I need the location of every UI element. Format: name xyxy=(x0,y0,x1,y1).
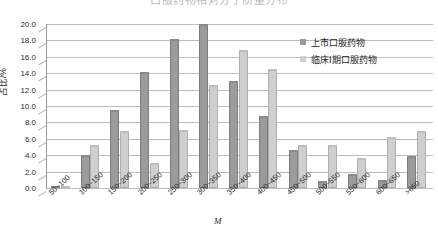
y-axis-tick-label: 2.0 xyxy=(0,167,36,176)
y-axis-tick-mark xyxy=(38,109,46,115)
y-axis-title: 占比/% xyxy=(0,68,8,96)
y-axis-tick-mark xyxy=(38,60,46,66)
bar-group xyxy=(136,24,166,188)
bar-cap xyxy=(348,174,357,176)
y-axis-tick-mark xyxy=(38,27,46,33)
bar-cap xyxy=(120,131,129,133)
y-axis-tick-labels: 0.02.04.06.08.010.012.014.016.018.020.0 xyxy=(0,24,36,188)
bar-group xyxy=(106,24,136,188)
bar xyxy=(229,81,238,188)
bar-cap xyxy=(407,156,416,158)
y-axis-tick-label: 0.0 xyxy=(0,184,36,193)
page-title: 口服药物相对分子质量分布 xyxy=(150,0,288,7)
bar-cap xyxy=(140,72,149,74)
y-axis-tick-label: 4.0 xyxy=(0,151,36,160)
bar-cap xyxy=(179,130,188,132)
y-axis-tick-label: 16.0 xyxy=(0,52,36,61)
x-axis-title: M xyxy=(214,216,222,226)
y-axis-tick-mark xyxy=(38,125,46,131)
bar xyxy=(170,39,179,188)
bar-cap xyxy=(328,145,337,147)
bar-cap xyxy=(387,137,396,139)
bar xyxy=(239,50,248,188)
bar-cap xyxy=(110,110,119,112)
y-axis-tick-label: 8.0 xyxy=(0,118,36,127)
y-axis-tick-mark xyxy=(38,93,46,99)
bar-cap xyxy=(239,50,248,52)
bar-chart: 口服药物相对分子质量分布 0.02.04.06.08.010.012.014.0… xyxy=(0,0,438,242)
bar-cap xyxy=(229,81,238,83)
bar xyxy=(199,24,208,188)
bar-cap xyxy=(90,145,99,147)
bar-group xyxy=(255,24,285,188)
bar xyxy=(259,116,268,188)
y-axis-tick-label: 20.0 xyxy=(0,20,36,29)
bar-cap xyxy=(150,163,159,165)
bar-cap xyxy=(209,85,218,87)
bar-group xyxy=(225,24,255,188)
y-axis-tick-mark xyxy=(38,43,46,49)
bar-group xyxy=(166,24,196,188)
legend-item[interactable]: 上市口服药物 xyxy=(300,36,432,48)
bar xyxy=(140,72,149,188)
bar-cap xyxy=(259,116,268,118)
y-axis-tick-mark xyxy=(38,142,46,148)
y-axis-tick-label: 18.0 xyxy=(0,36,36,45)
bar-cap xyxy=(357,158,366,160)
legend-label: 临床Ⅰ期口服药物 xyxy=(311,53,377,66)
x-axis-tick-labels: 50~100100~150150~200200~250250~300300~35… xyxy=(46,190,432,230)
chart-title-strip: 口服药物相对分子质量分布 xyxy=(0,0,438,11)
legend-label: 上市口服药物 xyxy=(311,36,365,49)
bar-cap xyxy=(417,131,426,133)
bar xyxy=(110,110,119,188)
bar-cap xyxy=(298,145,307,147)
bar-group xyxy=(195,24,225,188)
y-axis-tick-label: 10.0 xyxy=(0,102,36,111)
bar-group xyxy=(77,24,107,188)
y-axis-tick-mark xyxy=(38,175,46,181)
bar xyxy=(417,131,426,188)
bar-cap xyxy=(289,150,298,152)
legend-swatch-icon xyxy=(300,56,306,62)
bar-cap xyxy=(268,69,277,71)
bar-cap xyxy=(170,39,179,41)
bar-group xyxy=(47,24,77,188)
y-axis-tick-mark xyxy=(38,76,46,82)
y-axis-tick-label: 6.0 xyxy=(0,134,36,143)
bar-cap xyxy=(81,155,90,157)
legend-swatch-icon xyxy=(300,39,306,45)
bar-cap xyxy=(199,24,208,26)
legend-item[interactable]: 临床Ⅰ期口服药物 xyxy=(300,53,432,65)
y-axis-tick-mark xyxy=(38,158,46,164)
chart-legend: 上市口服药物临床Ⅰ期口服药物 xyxy=(300,36,432,70)
